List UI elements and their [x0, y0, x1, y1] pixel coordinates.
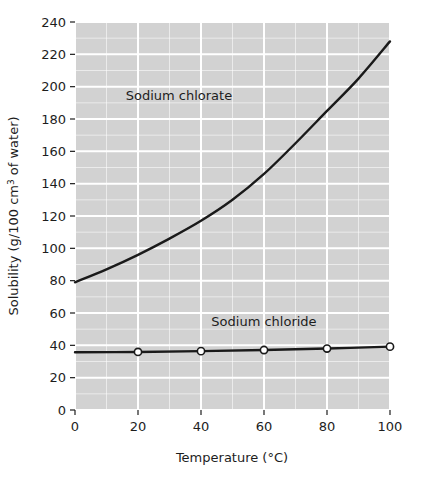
y-tick-label: 180 — [41, 112, 66, 127]
y-tick-label: 200 — [41, 79, 66, 94]
x-tick-label: 20 — [130, 419, 147, 434]
x-tick-label: 100 — [378, 419, 403, 434]
data-point-marker — [134, 348, 141, 355]
data-point-marker — [323, 345, 330, 352]
data-point-marker — [197, 348, 204, 355]
y-tick-label: 80 — [49, 273, 66, 288]
series-label-sodium-chlorate: Sodium chlorate — [126, 88, 232, 103]
x-tick-label: 40 — [193, 419, 210, 434]
y-tick-label: 0 — [58, 403, 66, 418]
y-tick-label: 140 — [41, 176, 66, 191]
y-tick-label: 100 — [41, 241, 66, 256]
y-tick-label: 20 — [49, 370, 66, 385]
y-tick-label: 60 — [49, 306, 66, 321]
solubility-chart-figure: 020406080100120140160180200220240 020406… — [0, 0, 423, 483]
chart-svg: 020406080100120140160180200220240 020406… — [0, 0, 423, 483]
data-point-marker — [386, 343, 393, 350]
page-caption-fragment — [0, 475, 423, 483]
y-tick-label: 40 — [49, 338, 66, 353]
x-tick-label: 60 — [256, 419, 273, 434]
y-tick-label: 160 — [41, 144, 66, 159]
y-tick-label: 220 — [41, 47, 66, 62]
data-point-marker — [260, 346, 267, 353]
y-axis-title: Solubility (g/100 cm3 of water) — [6, 116, 21, 315]
x-tick-label: 80 — [319, 419, 336, 434]
x-axis-title: Temperature (°C) — [175, 450, 288, 465]
y-tick-label: 240 — [41, 15, 66, 30]
y-tick-label: 120 — [41, 209, 66, 224]
series-label-sodium-chloride: Sodium chloride — [211, 314, 316, 329]
x-tick-label: 0 — [71, 419, 79, 434]
